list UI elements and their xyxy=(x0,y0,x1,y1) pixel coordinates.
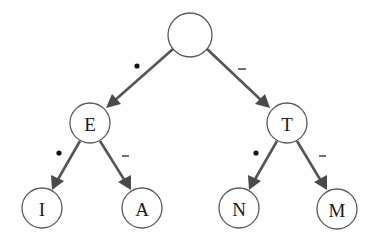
arrowhead-icon xyxy=(248,175,261,190)
edge-T-to-M xyxy=(297,141,327,190)
node-label: E xyxy=(84,114,96,135)
node-I: I xyxy=(22,188,62,228)
arrowhead-icon xyxy=(51,175,64,190)
dot-symbol-icon xyxy=(134,63,139,68)
node-label: A xyxy=(135,199,149,220)
edge-E-to-I xyxy=(51,141,80,190)
arrowhead-icon xyxy=(118,175,131,190)
node-T: T xyxy=(267,103,307,143)
edge-root-to-E xyxy=(106,49,173,108)
edge-root-to-T xyxy=(207,49,270,108)
node-root xyxy=(168,13,212,57)
node-label: M xyxy=(329,200,346,221)
node-E: E xyxy=(70,103,110,143)
edge-E-to-A xyxy=(100,141,131,190)
node-N: N xyxy=(219,188,259,228)
edge-T-to-N xyxy=(248,141,277,190)
morse-tree-diagram: E T I A N M xyxy=(0,0,376,244)
node-M: M xyxy=(317,189,357,229)
node-A: A xyxy=(122,188,162,228)
dot-symbol-icon xyxy=(56,150,61,155)
node-label: I xyxy=(39,199,45,220)
arrowhead-icon xyxy=(314,175,327,190)
node-label: N xyxy=(232,199,246,220)
dot-symbol-icon xyxy=(253,150,258,155)
node-label: T xyxy=(281,114,293,135)
